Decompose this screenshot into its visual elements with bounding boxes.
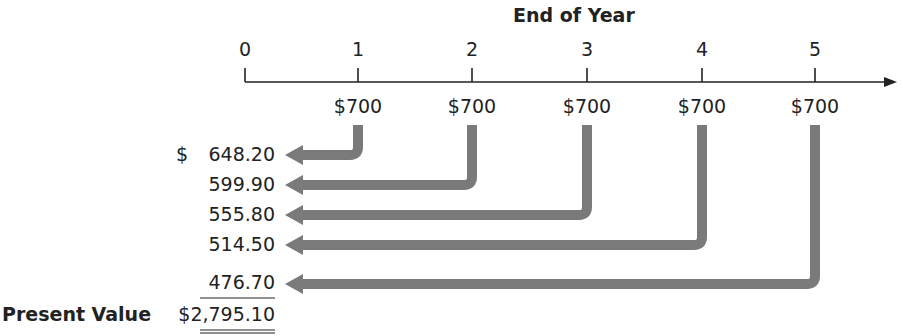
arrowhead-icon bbox=[285, 235, 303, 255]
cash-flow-label: $700 bbox=[678, 95, 726, 117]
axis-arrowhead-icon bbox=[884, 77, 897, 87]
period-label: 2 bbox=[466, 38, 478, 60]
discount-arrow-3 bbox=[300, 125, 587, 215]
period-label: 3 bbox=[581, 38, 593, 60]
present-value-1: 648.20 bbox=[209, 143, 275, 165]
present-value-3: 555.80 bbox=[209, 203, 275, 225]
timeline-graphics bbox=[0, 0, 903, 336]
currency-symbol: $ bbox=[176, 143, 188, 165]
present-value-total: $2,795.10 bbox=[178, 303, 275, 325]
period-label: 5 bbox=[809, 38, 821, 60]
arrowhead-icon bbox=[285, 175, 303, 195]
present-value-label: Present Value bbox=[2, 303, 151, 325]
cash-flow-label: $700 bbox=[448, 95, 496, 117]
arrowhead-icon bbox=[285, 274, 303, 294]
cash-flow-label: $700 bbox=[334, 95, 382, 117]
discount-arrow-5 bbox=[300, 125, 815, 284]
present-value-timeline-diagram: End of Year 0 1 2 3 4 5 $700 $700 $700 $… bbox=[0, 0, 903, 336]
discount-arrow-1 bbox=[300, 125, 358, 155]
present-value-4: 514.50 bbox=[209, 233, 275, 255]
cash-flow-label: $700 bbox=[791, 95, 839, 117]
diagram-title: End of Year bbox=[513, 4, 635, 26]
period-label: 0 bbox=[239, 38, 251, 60]
cash-flow-label: $700 bbox=[563, 95, 611, 117]
arrowhead-icon bbox=[285, 205, 303, 225]
arrowhead-icon bbox=[285, 145, 303, 165]
present-value-2: 599.90 bbox=[209, 173, 275, 195]
period-label: 1 bbox=[352, 38, 364, 60]
present-value-5: 476.70 bbox=[209, 271, 275, 293]
period-label: 4 bbox=[696, 38, 708, 60]
